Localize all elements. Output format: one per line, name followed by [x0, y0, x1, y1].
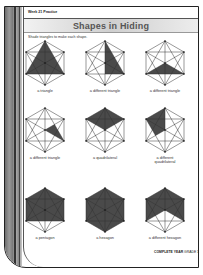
- vertex-dot: [85, 220, 87, 222]
- shape-label: a pentagon: [20, 236, 70, 240]
- vertex-dot: [25, 198, 27, 200]
- shape-label: a different triangle: [80, 89, 130, 93]
- vertex-dot: [25, 118, 27, 120]
- vertex-dot: [164, 40, 166, 42]
- hexagon-shape[interactable]: [145, 40, 185, 86]
- footer-grade: GRADE 1: [184, 250, 199, 254]
- vertex-dot: [104, 209, 106, 211]
- spoke-line: [86, 130, 105, 141]
- hexagon-shape[interactable]: [85, 187, 125, 233]
- vertex-dot: [164, 231, 166, 233]
- vertex-dot: [25, 140, 27, 142]
- vertex-dot: [44, 151, 46, 153]
- spoke-line: [26, 130, 45, 141]
- spoke-line: [86, 63, 105, 74]
- vertex-dot: [164, 151, 166, 153]
- vertex-dot: [104, 40, 106, 42]
- vertex-dot: [85, 140, 87, 142]
- vertex-dot: [63, 140, 65, 142]
- shape-label: a quadrilateral: [80, 156, 130, 160]
- vertex-dot: [104, 129, 106, 131]
- vertex-dot: [44, 129, 46, 131]
- vertex-dot: [44, 40, 46, 42]
- hexagon-shape[interactable]: [25, 40, 65, 86]
- vertex-dot: [145, 73, 147, 75]
- vertex-dot: [183, 51, 185, 53]
- hexagon-shape[interactable]: [25, 187, 65, 233]
- vertex-dot: [63, 198, 65, 200]
- vertex-dot: [123, 118, 125, 120]
- hexagon-shape[interactable]: [145, 187, 185, 233]
- spoke-line: [105, 130, 124, 141]
- vertex-dot: [123, 140, 125, 142]
- vertex-dot: [164, 129, 166, 131]
- shape-label: a different quadrilateral: [148, 156, 182, 165]
- hexagon-grid: [0, 0, 203, 275]
- spoke-line: [165, 119, 184, 130]
- vertex-dot: [63, 73, 65, 75]
- vertex-dot: [183, 73, 185, 75]
- vertex-dot: [164, 62, 166, 64]
- vertex-dot: [123, 51, 125, 53]
- vertex-dot: [44, 107, 46, 109]
- footer: COMPLETE YEAR GRADE 1: [154, 250, 199, 254]
- hexagon-shape[interactable]: [25, 107, 65, 153]
- vertex-dot: [183, 198, 185, 200]
- vertex-dot: [44, 187, 46, 189]
- vertex-dot: [44, 84, 46, 86]
- shape-label: a different triangle: [140, 89, 190, 93]
- vertex-dot: [145, 140, 147, 142]
- hexagon-shape[interactable]: [145, 107, 185, 153]
- vertex-dot: [104, 187, 106, 189]
- vertex-dot: [44, 209, 46, 211]
- vertex-dot: [123, 220, 125, 222]
- vertex-dot: [85, 51, 87, 53]
- vertex-dot: [63, 220, 65, 222]
- vertex-dot: [183, 220, 185, 222]
- hexagon-shape[interactable]: [85, 40, 125, 86]
- vertex-dot: [145, 51, 147, 53]
- vertex-dot: [63, 118, 65, 120]
- vertex-dot: [123, 73, 125, 75]
- vertex-dot: [25, 220, 27, 222]
- vertex-dot: [183, 118, 185, 120]
- shape-label: a different hexagon: [140, 236, 190, 240]
- vertex-dot: [63, 51, 65, 53]
- vertex-dot: [104, 107, 106, 109]
- vertex-dot: [164, 209, 166, 211]
- vertex-dot: [164, 187, 166, 189]
- vertex-dot: [104, 231, 106, 233]
- vertex-dot: [145, 220, 147, 222]
- vertex-dot: [164, 84, 166, 86]
- vertex-dot: [25, 51, 27, 53]
- shape-label: a hexagon: [80, 236, 130, 240]
- vertex-dot: [85, 198, 87, 200]
- spoke-line: [86, 52, 105, 63]
- vertex-dot: [44, 231, 46, 233]
- footer-brand: COMPLETE YEAR: [154, 250, 183, 254]
- vertex-dot: [104, 84, 106, 86]
- vertex-dot: [145, 198, 147, 200]
- vertex-dot: [44, 62, 46, 64]
- vertex-dot: [183, 140, 185, 142]
- vertex-dot: [85, 118, 87, 120]
- vertex-dot: [164, 107, 166, 109]
- vertex-dot: [104, 151, 106, 153]
- vertex-dot: [25, 73, 27, 75]
- vertex-dot: [123, 198, 125, 200]
- spoke-line: [146, 52, 165, 63]
- vertex-dot: [104, 62, 106, 64]
- shaded-region: [45, 125, 64, 142]
- spoke-line: [165, 130, 184, 141]
- shape-label: a triangle: [20, 89, 70, 93]
- shape-label: a different triangle: [20, 156, 70, 160]
- spoke-line: [165, 52, 184, 63]
- vertex-dot: [85, 73, 87, 75]
- vertex-dot: [145, 118, 147, 120]
- hexagon-shape[interactable]: [85, 107, 125, 153]
- spoke-line: [26, 119, 45, 130]
